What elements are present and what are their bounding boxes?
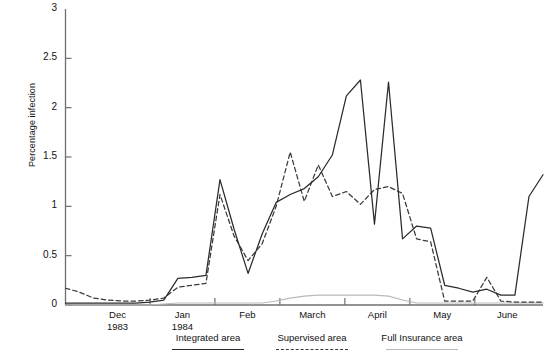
y-tick-label: 1 [31, 199, 57, 210]
x-tick-label: March [277, 309, 347, 320]
legend-item-1: Supervised area [262, 332, 362, 354]
x-tick-label: Feb [212, 309, 282, 320]
legend-item-0: Integrated area [160, 332, 256, 354]
series-line [66, 152, 544, 302]
line-chart-plot [0, 0, 549, 358]
series-line [66, 80, 544, 303]
y-tick-label: 0.5 [31, 249, 57, 260]
legend-swatch-full-insurance [366, 346, 478, 354]
legend-label: Integrated area [160, 332, 256, 343]
x-tick-label: Dec [82, 309, 152, 320]
legend-swatch-supervised [262, 346, 362, 354]
x-tick-label: Jan [147, 309, 217, 320]
legend-item-2: Full Insurance area [366, 332, 478, 354]
y-tick-label: 1.5 [31, 150, 57, 161]
legend-swatch-integrated [160, 346, 256, 354]
x-tick-label: April [342, 309, 412, 320]
y-tick-label: 0 [31, 298, 57, 309]
legend-label: Supervised area [262, 332, 362, 343]
x-tick-sublabel: 1983 [82, 321, 152, 332]
y-tick-label: 3 [31, 2, 57, 13]
y-tick-label: 2.5 [31, 51, 57, 62]
legend-label: Full Insurance area [366, 332, 478, 343]
x-tick-label: May [407, 309, 477, 320]
y-tick-label: 2 [31, 101, 57, 112]
chart-root: Percentage infection 00.511.522.53 Dec19… [0, 0, 549, 358]
x-tick-label: June [472, 309, 542, 320]
chart-legend: Integrated area Supervised area Full Ins… [0, 332, 549, 358]
x-tick-sublabel: 1984 [147, 321, 217, 332]
